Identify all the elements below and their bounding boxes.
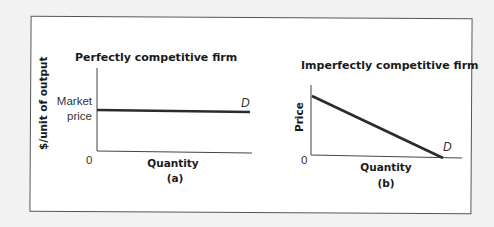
panel-b-title: Imperfectly competitive firm <box>301 59 479 72</box>
panel-a-origin-label: 0 <box>86 154 92 166</box>
panel-b: Imperfectly competitive firm Price D 0 Q… <box>293 59 479 189</box>
panel-b-demand-curve <box>312 96 443 158</box>
panel-a-x-axis <box>97 151 252 153</box>
panel-b-y-axis-label: Price <box>293 102 305 132</box>
panel-a: Perfectly competitive firm $/unit of out… <box>37 51 252 184</box>
panel-a-demand-label: D <box>241 96 250 110</box>
panel-a-caption: (a) <box>167 172 184 184</box>
panel-b-demand-label: D <box>443 140 452 154</box>
chart-canvas: Perfectly competitive firm $/unit of out… <box>0 0 494 227</box>
panel-b-caption: (b) <box>377 177 394 189</box>
panel-a-x-axis-label: Quantity <box>147 157 199 169</box>
market-price-label-line2: price <box>67 110 92 122</box>
panel-a-y-axis-label: $/unit of output <box>37 56 49 150</box>
panel-a-title: Perfectly competitive firm <box>75 51 237 64</box>
panel-a-demand-curve <box>97 110 250 112</box>
panel-b-origin-label: 0 <box>301 154 307 166</box>
market-price-label-line1: Market <box>57 95 93 107</box>
panel-b-x-axis-label: Quantity <box>360 161 412 173</box>
